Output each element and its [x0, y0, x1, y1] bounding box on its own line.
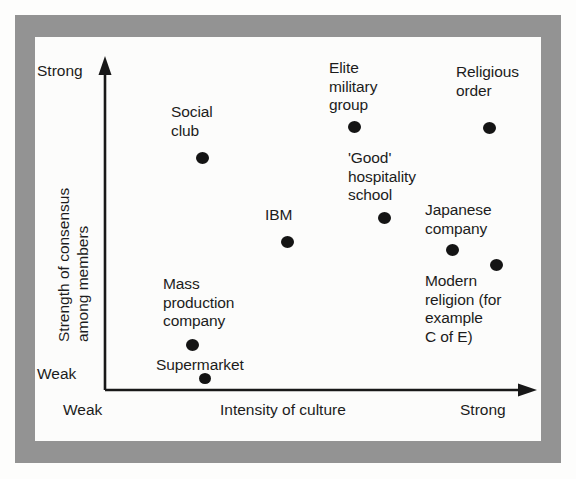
point-label-elite-military-group: Elite military group — [329, 59, 377, 115]
point-label-japanese-company: Japanese company — [425, 201, 491, 238]
scatter-chart-figure: Strong Weak Weak Strong Intensity of cul… — [0, 0, 576, 479]
point-label-social-club: Social club — [171, 103, 213, 140]
point-label-mass-production-company: Mass production company — [163, 275, 234, 331]
y-axis-title-line2: among members — [74, 226, 92, 342]
point-label-modern-religion: Modern religion (for example C of E) — [425, 272, 501, 346]
point-label-religious-order: Religious order — [456, 63, 519, 100]
data-point-supermarket — [199, 373, 211, 384]
data-point-good-hospitality-school — [378, 212, 391, 224]
x-axis-strong-label: Strong — [460, 401, 506, 419]
point-label-supermarket: Supermarket — [156, 356, 244, 375]
data-point-modern-religion — [490, 259, 503, 271]
point-label-good-hospitality-school: 'Good' hospitality school — [348, 149, 416, 205]
data-point-religious-order — [483, 122, 496, 134]
y-axis-strong-label: Strong — [37, 62, 83, 80]
y-axis-arrowhead — [99, 56, 112, 75]
x-axis-weak-label: Weak — [63, 401, 102, 419]
data-point-japanese-company — [446, 244, 459, 256]
y-axis-title-line1: Strength of consensus — [55, 188, 73, 342]
x-axis-title: Intensity of culture — [220, 401, 346, 419]
y-axis-weak-label: Weak — [37, 365, 76, 383]
data-point-elite-military-group — [348, 121, 361, 133]
x-axis-arrowhead — [518, 384, 537, 397]
point-label-ibm: IBM — [265, 206, 292, 225]
data-point-ibm — [281, 236, 294, 248]
data-point-mass-production-company — [186, 339, 199, 351]
data-point-social-club — [196, 152, 209, 164]
plot-area: Strong Weak Weak Strong Intensity of cul… — [35, 37, 541, 441]
